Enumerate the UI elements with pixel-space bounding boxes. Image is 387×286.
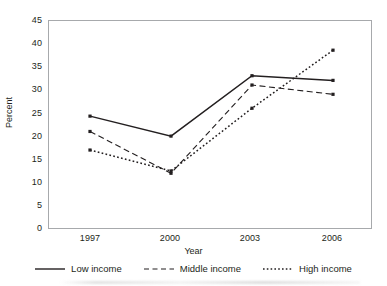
data-point-marker [331,93,334,96]
data-point-marker [169,135,172,138]
data-point-marker [331,49,334,52]
data-point-marker [88,148,91,151]
series-middle-income [88,83,334,174]
legend-item-high-income: High income [263,264,352,274]
y-tick-15: 15 [17,155,42,164]
x-tick-2000: 2000 [160,233,180,243]
x-axis-tick-labels: 1997 2000 2003 2006 [0,233,387,247]
series-line [90,76,333,136]
legend-label-high-income: High income [299,264,352,274]
y-tick-0: 0 [17,224,42,233]
data-point-marker [250,83,253,86]
legend-label-middle-income: Middle income [180,264,241,274]
plot-series-layer [48,20,372,229]
line-chart-figure: 45 40 35 30 25 20 15 10 5 0 Percent 1997… [0,0,387,286]
x-tick-2003: 2003 [240,233,260,243]
x-tick-1997: 1997 [80,233,100,243]
y-tick-30: 30 [17,85,42,94]
y-tick-35: 35 [17,62,42,71]
x-axis-title: Year [0,246,387,256]
x-tick-2006: 2006 [322,233,342,243]
data-point-marker [88,115,91,118]
data-point-marker [250,107,253,110]
series-line [90,50,333,171]
data-point-marker [169,169,172,172]
legend-label-low-income: Low income [71,264,122,274]
y-tick-10: 10 [17,178,42,187]
y-tick-5: 5 [17,201,42,210]
y-tick-40: 40 [17,39,42,48]
y-tick-20: 20 [17,132,42,141]
legend-swatch-dashed-icon [144,265,174,273]
page-edge-artifact [60,281,360,284]
legend-item-middle-income: Middle income [144,264,241,274]
y-tick-45: 45 [17,16,42,25]
series-high-income [88,49,334,173]
y-tick-25: 25 [17,109,42,118]
series-line [90,85,333,173]
data-point-marker [250,74,253,77]
legend-item-low-income: Low income [35,264,122,274]
y-axis-title: Percent [5,81,14,145]
chart-legend: Low income Middle income High income [0,262,387,276]
legend-swatch-solid-icon [35,265,65,273]
data-point-marker [331,79,334,82]
legend-swatch-dotted-icon [263,265,293,273]
data-point-marker [88,130,91,133]
series-low-income [88,74,334,138]
